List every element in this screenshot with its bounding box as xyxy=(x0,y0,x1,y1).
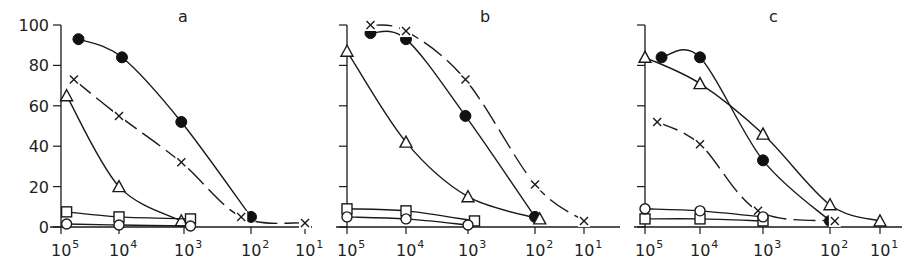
marker-open-circle xyxy=(695,206,705,216)
x-tick-label: 102 xyxy=(241,238,269,260)
x-tick-label: 104 xyxy=(396,238,424,260)
marker-filled-circle xyxy=(176,116,187,127)
x-tick-label: 105 xyxy=(51,238,79,260)
marker-cross xyxy=(829,215,841,227)
marker-open-square xyxy=(62,207,72,217)
marker-open-triangle xyxy=(462,191,474,202)
panel-label: a xyxy=(178,7,188,26)
series-line-cross xyxy=(370,25,584,221)
marker-open-triangle xyxy=(341,45,353,56)
marker-open-circle xyxy=(758,212,768,222)
marker-open-triangle xyxy=(639,51,651,62)
x-tick-label: 103 xyxy=(458,238,486,260)
x-tick-label: 101 xyxy=(574,238,602,260)
marker-cross xyxy=(299,217,311,229)
panel-label: b xyxy=(480,7,490,26)
panel-label: c xyxy=(769,7,778,26)
series-line-open-square xyxy=(67,212,191,219)
marker-filled-circle xyxy=(695,52,706,63)
x-tick-label: 104 xyxy=(690,238,718,260)
series-line-cross xyxy=(74,80,305,224)
x-tick-label: 102 xyxy=(820,238,848,260)
marker-open-circle xyxy=(640,204,650,214)
x-tick-label: 105 xyxy=(635,238,663,260)
marker-cross xyxy=(68,74,80,86)
series-line-cross xyxy=(657,122,835,221)
marker-cross xyxy=(651,116,663,128)
marker-cross xyxy=(113,110,125,122)
series-line-filled-circle xyxy=(370,31,535,217)
panel-c: 105104103102101c xyxy=(634,7,902,260)
marker-open-triangle xyxy=(694,78,706,89)
marker-filled-circle xyxy=(116,52,127,63)
x-tick-label: 101 xyxy=(295,238,323,260)
panel-b: 105104103102101b xyxy=(336,7,620,260)
marker-cross xyxy=(529,179,541,191)
marker-cross xyxy=(235,211,247,223)
marker-cross xyxy=(400,25,412,37)
marker-open-circle xyxy=(463,220,473,230)
y-tick-label: 0 xyxy=(39,218,49,237)
y-tick-label: 100 xyxy=(18,16,49,35)
x-tick-label: 103 xyxy=(753,238,781,260)
y-tick-label: 60 xyxy=(29,97,49,116)
marker-open-circle xyxy=(401,214,411,224)
y-tick-label: 80 xyxy=(29,56,49,75)
marker-cross xyxy=(459,74,471,86)
x-tick-label: 103 xyxy=(174,238,202,260)
series-line-filled-circle xyxy=(78,39,251,217)
x-tick-label: 101 xyxy=(870,238,898,260)
marker-filled-circle xyxy=(656,52,667,63)
marker-open-circle xyxy=(185,221,195,231)
marker-filled-circle xyxy=(73,34,84,45)
y-tick-label: 20 xyxy=(29,178,49,197)
series-line-open-triangle xyxy=(347,51,540,219)
marker-open-triangle xyxy=(61,90,73,101)
panel-a: 020406080100105104103102101a xyxy=(18,7,323,260)
marker-cross xyxy=(364,19,376,31)
marker-open-circle xyxy=(114,220,124,230)
x-tick-label: 102 xyxy=(525,238,553,260)
marker-cross xyxy=(578,215,590,227)
marker-cross xyxy=(175,156,187,168)
marker-open-square xyxy=(640,214,650,224)
marker-open-circle xyxy=(342,212,352,222)
marker-open-circle xyxy=(62,219,72,229)
series-line-open-circle xyxy=(67,224,191,226)
marker-filled-circle xyxy=(758,155,769,166)
y-tick-label: 40 xyxy=(29,137,49,156)
x-tick-label: 105 xyxy=(337,238,365,260)
marker-filled-circle xyxy=(460,110,471,121)
figure: 020406080100105104103102101a105104103102… xyxy=(0,0,919,280)
marker-cross xyxy=(694,138,706,150)
x-tick-label: 104 xyxy=(109,238,137,260)
